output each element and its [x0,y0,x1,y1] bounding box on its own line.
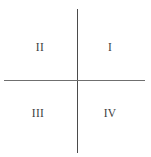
quadrant-diagram: I II III IV [0,0,151,157]
horizontal-axis [4,80,145,81]
quadrant-label-four: IV [104,107,117,119]
vertical-axis [77,9,78,153]
quadrant-label-one: I [108,41,112,53]
quadrant-label-three: III [32,107,44,119]
quadrant-label-two: II [36,41,44,53]
